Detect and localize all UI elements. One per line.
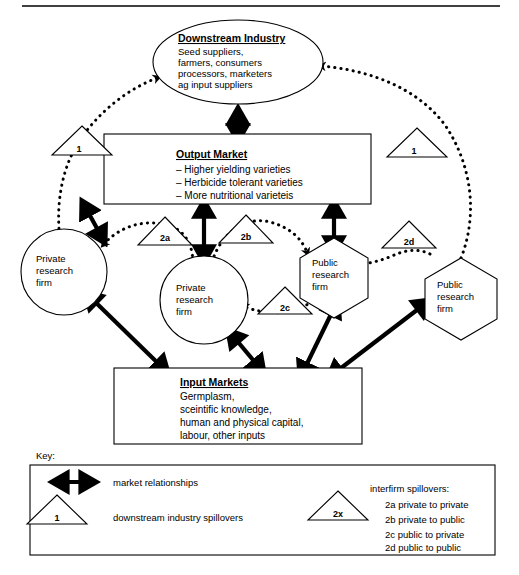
node-public-research-firm-right: Public research firm [425,258,497,340]
public-firm-right-line-1: Public [437,279,463,290]
spillover-path-2d [362,250,430,264]
downstream-industry-line-4: ag input suppliers [178,79,253,90]
key-downstream-spillovers-label: downstream industry spillovers [113,512,243,523]
key-interfirm-item-4: 2d public to public [385,542,461,553]
public-firm-right-line-2: research [437,291,474,302]
node-private-research-firm-left: Private research firm [21,229,107,315]
market-link-input-private-center [228,330,264,373]
private-firm-center-line-2: research [176,294,213,305]
private-firm-center-line-3: firm [176,306,192,317]
input-markets-line-1: Germplasm, [180,391,234,402]
key-label: Key: [36,450,55,461]
public-firm-center-line-3: firm [312,281,328,292]
key-downstream-triangle-label: 1 [54,513,59,523]
private-firm-center-line-1: Private [176,282,206,293]
input-markets-title: Input Markets [180,376,248,388]
triangle-2a-label: 2a [160,233,171,243]
spillover-triangle-downstream-left: 1 [52,126,112,155]
key-interfirm-item-1: 2a private to private [385,499,468,510]
key-interfirm-triangle-label: 2x [333,509,343,519]
private-firm-left-line-2: research [36,265,73,276]
public-firm-right-line-3: firm [437,303,453,314]
downstream-industry-line-3: processors, marketers [178,68,272,79]
spillover-triangle-2d: 2d [382,221,436,248]
triangle-2d-label: 2d [404,237,415,247]
downstream-industry-title: Downstream Industry [178,32,286,44]
key-market-relationships-label: market relationships [113,477,198,488]
spillover-triangle-downstream-right: 1 [387,128,447,157]
key-interfirm-item-3: 2c public to private [385,529,464,540]
triangle-2b-label: 2b [241,232,252,242]
input-markets-line-3: human and physical capital, [180,417,303,428]
public-firm-center-line-2: research [312,269,349,280]
public-firm-center-line-1: Public [312,257,338,268]
spillover-triangle-2b: 2b [219,215,273,243]
key-interfirm-item-2: 2b private to public [385,514,465,525]
key-interfirm-heading: interfirm spillovers: [370,483,449,494]
output-market-line-1: – Higher yielding varieties [176,164,291,175]
output-market-line-3: – More nutritional varieteis [176,190,293,201]
node-private-research-firm-center: Private research firm [160,256,248,344]
private-firm-left-line-1: Private [36,253,66,264]
triangle-downstream-right-shape [387,128,447,157]
downstream-industry-line-1: Seed suppliers, [178,46,243,57]
output-market-line-2: – Herbicide tolerant varieties [176,177,303,188]
downstream-industry-line-2: farmers, consumers [178,57,262,68]
triangle-2c-label: 2c [280,303,290,313]
input-markets-line-4: labour, other inputs [180,430,265,441]
node-downstream-industry: Downstream Industry Seed suppliers, farm… [153,20,323,104]
research-spillovers-diagram: Downstream Industry Seed suppliers, farm… [0,0,519,575]
spillover-triangle-2a: 2a [138,217,192,245]
market-link-input-private-left [85,292,168,373]
private-firm-left-line-3: firm [36,277,52,288]
output-market-title: Output Market [176,148,248,160]
input-markets-line-2: sceintific knowledge, [180,404,272,415]
triangle-downstream-right-label: 1 [411,146,416,156]
node-output-market: Output Market – Higher yielding varietie… [104,134,371,204]
node-public-research-firm-center: Public research firm [300,238,368,318]
node-input-markets: Input Markets Germplasm, sceintific know… [114,368,362,444]
triangle-downstream-left-shape [52,126,112,155]
triangle-downstream-left-label: 1 [76,144,81,154]
